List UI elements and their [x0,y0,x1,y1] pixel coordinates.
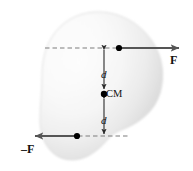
physics-figure-couple-on-rigid-body: F –F d d CM [0,0,193,171]
force-application-point-bottom [74,133,80,139]
center-of-mass-label: CM [106,89,122,100]
distance-label-top: d [101,69,107,80]
force-positive-label: F [170,54,177,66]
force-application-point-top [116,45,122,51]
distance-label-bottom: d [101,115,107,126]
rigid-body-blob [40,12,163,160]
force-negative-label: –F [21,143,34,155]
